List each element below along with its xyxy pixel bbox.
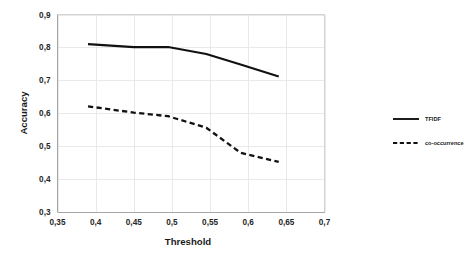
x-tick-label-3: 0,5 — [166, 218, 178, 227]
x-tick-label-6: 0,65 — [278, 218, 294, 227]
y-tick-label-6: 0,9 — [39, 11, 51, 20]
chart-container: 0,30,40,50,60,70,80,9 0,350,40,450,50,55… — [0, 0, 464, 255]
y-tick-label-2: 0,5 — [39, 142, 51, 151]
figure-background — [0, 0, 464, 255]
x-tick-label-7: 0,7 — [319, 218, 331, 227]
x-tick-label-2: 0,45 — [126, 218, 142, 227]
y-tick-label-1: 0,4 — [39, 175, 51, 184]
line-chart-figure: 0,30,40,50,60,70,80,9 0,350,40,450,50,55… — [0, 0, 464, 255]
x-tick-label-0: 0,35 — [50, 218, 66, 227]
y-tick-label-0: 0,3 — [39, 208, 51, 217]
y-axis-title: Accuracy — [18, 91, 29, 135]
y-tick-label-4: 0,7 — [39, 76, 51, 85]
x-tick-label-1: 0,4 — [90, 218, 102, 227]
y-tick-label-3: 0,6 — [39, 109, 51, 118]
y-tick-label-5: 0,8 — [39, 43, 51, 52]
legend-label-1: co-occurrence — [425, 140, 464, 146]
x-tick-label-4: 0,55 — [202, 218, 218, 227]
legend-label-0: TFIDF — [425, 116, 441, 122]
x-tick-label-5: 0,6 — [243, 218, 255, 227]
x-axis-title: Threshold — [165, 236, 212, 247]
